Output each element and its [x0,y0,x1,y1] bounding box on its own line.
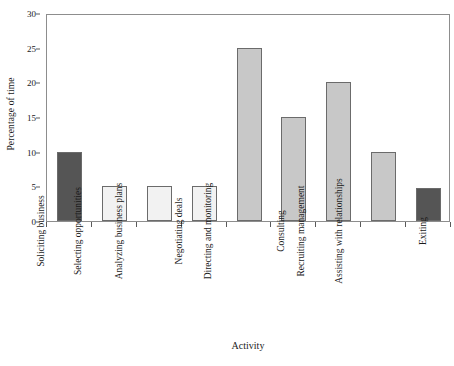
bars-layer [47,15,449,221]
x-axis-tick-mark [270,222,271,227]
bar-chart: Percentage of time 051015202530 Soliciti… [0,0,454,366]
x-axis-tick-label: Assisting with relationships [360,229,405,337]
y-axis-tick-label: 25 [27,44,36,53]
x-axis-tick-mark [450,222,451,227]
y-axis-tick-label: 15 [27,114,36,123]
bar [371,152,396,221]
x-axis-tick-mark [226,222,227,227]
x-axis-tick-mark [91,222,92,227]
x-axis-tick-label-text: Selecting opportunities [73,187,83,275]
x-axis-tick-marks [46,222,450,228]
x-axis-tick-mark [315,222,316,227]
y-axis-tick-mark [36,83,40,84]
x-axis-tick-labels: Soliciting businessSelecting opportuniti… [46,229,450,339]
y-axis-tick-mark [36,118,40,119]
x-axis-tick-mark [405,222,406,227]
x-axis-tick-label: Exiting [405,229,450,337]
x-axis-tick-label: Consulting [270,229,315,337]
x-axis-title: Activity [46,340,450,351]
x-axis-tick-label: Directing and monitoring [226,229,271,337]
y-axis-title-text: Percentage of time [6,77,16,150]
y-axis-tick-label: 10 [27,148,36,157]
x-axis-tick-label-text: Negotiating deals [174,198,184,265]
y-axis-tick-mark [36,48,40,49]
y-axis-title: Percentage of time [0,0,22,228]
y-axis-tick-label: 30 [27,10,36,19]
x-axis-tick-label-text: Recruiting management [296,186,306,277]
x-axis-tick-label-text: Exiting [418,217,428,245]
x-axis-tick-mark [46,222,47,227]
x-axis-tick-label: Soliciting business [46,229,91,337]
x-axis-tick-label-text: Assisting with relationships [334,178,344,284]
bar [147,186,172,221]
plot-area [46,14,450,222]
x-axis-tick-label-text: Directing and monitoring [203,183,213,280]
bar [416,188,441,221]
bar [237,48,262,221]
y-axis-tick-mark [36,14,40,15]
x-axis-tick-mark [360,222,361,227]
x-axis-tick-mark [136,222,137,227]
y-axis-tick-mark [36,187,40,188]
y-axis-tick-mark [36,152,40,153]
x-axis-tick-label-text: Consulting [276,210,286,252]
x-axis-tick-label-text: Analyzing business plans [114,183,124,280]
x-axis-tick-label-text: Soliciting business [36,195,46,267]
y-axis-tick-label: 20 [27,79,36,88]
